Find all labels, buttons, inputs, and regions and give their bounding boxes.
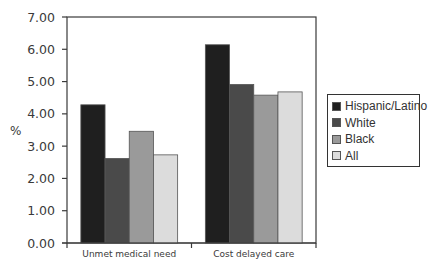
bars (81, 45, 302, 243)
legend-label: White (345, 116, 376, 130)
bar-hispanic-latino-0 (81, 105, 105, 243)
legend: Hispanic/LatinoWhiteBlackAll (327, 94, 420, 167)
bar-all-0 (153, 155, 177, 243)
legend-label: All (345, 149, 358, 163)
legend-item: Hispanic/Latino (332, 98, 415, 115)
x-axis: Unmet medical needCost delayed care (62, 243, 316, 259)
y-tick-label: 4.00 (27, 106, 55, 121)
y-tick-label: 0.00 (27, 236, 55, 251)
y-tick-label: 1.00 (27, 203, 55, 218)
legend-label: Black (345, 132, 374, 146)
x-category-label: Cost delayed care (213, 249, 295, 259)
legend-item: White (332, 115, 415, 132)
bar-all-1 (278, 92, 302, 243)
legend-label: Hispanic/Latino (345, 99, 427, 113)
legend-item: All (332, 148, 415, 165)
bar-black-0 (129, 131, 153, 243)
bar-white-0 (105, 158, 129, 243)
x-category-label: Unmet medical need (82, 249, 176, 259)
bar-hispanic-latino-1 (205, 45, 229, 243)
y-axis-title: % (10, 124, 21, 138)
y-tick-label: 3.00 (27, 139, 55, 154)
bar-black-1 (254, 95, 278, 243)
y-axis: 0.001.002.003.004.005.006.007.00 (27, 10, 67, 251)
legend-swatch (332, 118, 341, 127)
legend-item: Black (332, 131, 415, 148)
y-tick-label: 6.00 (27, 42, 55, 57)
y-tick-label: 2.00 (27, 171, 55, 186)
y-tick-label: 5.00 (27, 74, 55, 89)
legend-swatch (332, 151, 341, 160)
y-tick-label: 7.00 (27, 10, 55, 25)
legend-swatch (332, 135, 341, 144)
bar-white-1 (230, 84, 254, 243)
legend-swatch (332, 102, 341, 111)
